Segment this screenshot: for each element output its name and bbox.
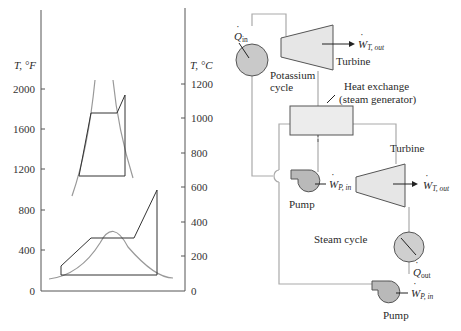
q-in-label: Qin [234, 30, 248, 46]
tick-left: 1600 [3, 123, 35, 135]
pipe-crossover [274, 170, 279, 182]
tick-right: 600 [191, 181, 208, 193]
tick-right: 800 [191, 147, 208, 159]
pump-label-bottom: Pump [383, 309, 409, 321]
pipe-pump-outlet [252, 82, 273, 176]
pipe-hx-left [279, 124, 290, 170]
tick-right: 200 [191, 250, 208, 262]
tick-right: 1200 [191, 78, 213, 90]
potassium-cycle-path [79, 95, 125, 176]
tick-right: 0 [191, 285, 197, 297]
w-p-in-label-1: WP, in [329, 178, 351, 194]
turbine-label-top: Turbine [336, 55, 370, 67]
potassium-dome-left [72, 80, 95, 196]
potassium-pump [291, 170, 320, 192]
tick-left: 800 [3, 204, 35, 216]
heat-exchanger [290, 106, 353, 135]
water-dome [49, 231, 173, 279]
tick-left: 400 [3, 244, 35, 256]
tick-right: 1000 [191, 112, 213, 124]
potassium-turbine [281, 25, 333, 70]
steam-generator-label: (steam generator) [339, 93, 416, 105]
pump-label-top: Pump [289, 198, 315, 210]
turbine-label-steam: Turbine [390, 142, 424, 154]
ts-chart [0, 0, 461, 331]
heat-exchange-label: Heat exchange [344, 80, 409, 92]
tick-left: 2000 [3, 83, 35, 95]
w-t-out-label-1: WT, out [358, 38, 384, 54]
potassium-dome-right [113, 80, 133, 178]
w-t-out-label-2: WT, out [423, 179, 449, 195]
potassium-cycle-label-2: cycle [270, 81, 293, 93]
right-axis-label: T, °C [190, 59, 213, 71]
steam-pump [372, 281, 400, 303]
left-axis-label: T, °F [14, 59, 36, 71]
tick-right: 400 [191, 216, 208, 228]
hx-pointer [327, 95, 335, 103]
pipe-boiler-to-turbine [252, 14, 286, 36]
steam-cycle-label: Steam cycle [314, 233, 367, 245]
w-p-in-label-2: WP, in [411, 287, 433, 303]
tick-left: 0 [3, 285, 35, 297]
potassium-cycle-label: Potassium [270, 69, 315, 81]
steam-turbine [356, 164, 405, 207]
potassium-boiler [236, 44, 268, 76]
tick-left: 1200 [3, 163, 35, 175]
